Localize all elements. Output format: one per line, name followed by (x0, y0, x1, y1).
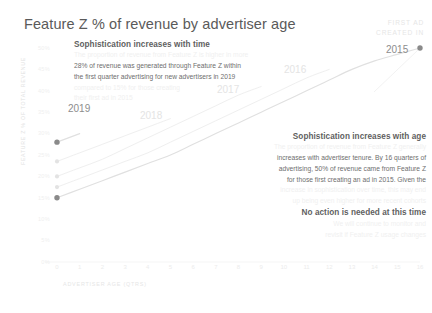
annotation-line: their first ad in 2015 (74, 93, 264, 104)
x-tick-label: 9 (254, 264, 268, 270)
x-tick-label: 7 (209, 264, 223, 270)
y-tick-label: 15% (24, 195, 50, 201)
annotation-no-action: No action is needed at this time We will… (248, 208, 426, 241)
series-marker-2016 (55, 185, 59, 189)
annotation-time-heading: Sophistication increases with time (74, 40, 264, 49)
series-marker-2017 (55, 174, 59, 178)
y-tick-label: 35% (24, 109, 50, 115)
y-tick-label: 40% (24, 88, 50, 94)
endpoint-year-label: 2015 (386, 44, 408, 55)
annotation-time-body: The proportion of revenue from Feature Z… (74, 50, 264, 104)
y-tick-label: 0% (24, 259, 50, 265)
x-axis-title: ADVERTISER AGE (QTRS) (63, 281, 147, 287)
series-label-2019: 2019 (68, 103, 90, 114)
callout-leader-line (374, 50, 418, 92)
y-tick-label: 20% (24, 173, 50, 179)
first-ad-line2: CREATED IN (376, 28, 424, 38)
x-tick-label: 3 (118, 264, 132, 270)
annotation-line: revisit if Feature Z usage changes (248, 230, 426, 241)
y-tick-label: 5% (24, 237, 50, 243)
x-tick-label: 10 (277, 264, 291, 270)
annotation-line: advertising, 50% of revenue came from Fe… (258, 164, 426, 175)
annotation-line: compared to 15% for those creating (74, 83, 264, 94)
annotation-line: increase in sophistication over time, th… (258, 185, 426, 196)
annotation-no-action-body: We will continue to monitor andrevisit i… (248, 219, 426, 241)
y-tick-label: 50% (24, 45, 50, 51)
first-ad-line1: FIRST AD (376, 18, 424, 28)
annotation-no-action-heading: No action is needed at this time (248, 208, 426, 217)
annotation-line: up being even higher for more recent coh… (258, 196, 426, 207)
x-tick-label: 11 (300, 264, 314, 270)
x-tick-label: 4 (141, 264, 155, 270)
annotation-line: increases with advertiser tenure. By 16 … (258, 153, 426, 164)
annotation-sophistication-time: Sophistication increases with time The p… (74, 40, 264, 104)
annotation-age-body: The proportion of revenue from Feature Z… (258, 142, 426, 207)
annotation-line: The proportion of revenue from Feature Z… (74, 50, 264, 61)
y-tick-label: 45% (24, 66, 50, 72)
series-label-2018: 2018 (140, 110, 162, 121)
chart-screenshot: Feature Z % of revenue by advertiser age… (0, 0, 432, 313)
x-tick-label: 16 (413, 264, 427, 270)
x-tick-label: 8 (232, 264, 246, 270)
annotation-age-heading: Sophistication increases with age (258, 132, 426, 141)
series-marker-2018 (55, 159, 59, 163)
x-tick-label: 6 (186, 264, 200, 270)
x-tick-label: 14 (368, 264, 382, 270)
series-marker-2015 (417, 45, 422, 50)
callout-leader-line (374, 50, 418, 92)
x-tick-label: 2 (95, 264, 109, 270)
annotation-line: The proportion of revenue from Feature Z… (258, 142, 426, 153)
x-tick-label: 13 (345, 264, 359, 270)
x-tick-label: 1 (73, 264, 87, 270)
series-marker-2015 (54, 195, 59, 200)
series-line-2018 (57, 119, 170, 162)
annotation-line: We will continue to monitor and (248, 219, 426, 230)
x-tick-label: 12 (322, 264, 336, 270)
x-tick-label: 0 (50, 264, 64, 270)
x-tick-label: 5 (163, 264, 177, 270)
y-tick-label: 10% (24, 216, 50, 222)
annotation-sophistication-age: Sophistication increases with age The pr… (258, 132, 426, 207)
series-marker-2019 (54, 139, 59, 144)
x-tick-label: 15 (390, 264, 404, 270)
series-line-2019 (57, 134, 80, 143)
annotation-line: 28% of revenue was generated through Fea… (74, 61, 264, 72)
annotation-line: for those first creating an ad in 2015. … (258, 175, 426, 186)
series-label-2016: 2016 (284, 64, 306, 75)
annotation-line: the first quarter advertising for new ad… (74, 72, 264, 83)
y-tick-label: 25% (24, 152, 50, 158)
first-ad-callout: FIRST AD CREATED IN (376, 18, 424, 37)
y-tick-label: 30% (24, 130, 50, 136)
